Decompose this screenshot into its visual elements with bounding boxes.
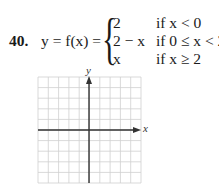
y-axis-label: y xyxy=(86,64,91,76)
x-axis-label: x xyxy=(143,122,148,134)
x-axis-arrow-icon xyxy=(133,127,141,133)
coordinate-grid xyxy=(0,0,219,192)
